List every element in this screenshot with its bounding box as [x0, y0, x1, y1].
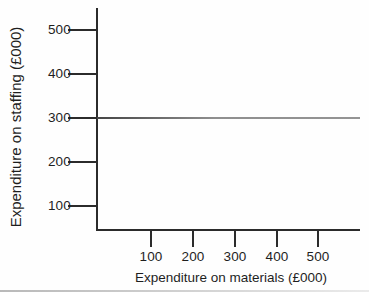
chart-figure: Expenditure on staffing (£000) 500 400 3… [0, 0, 369, 292]
x-tick-label-500: 500 [298, 249, 338, 265]
x-tick-label-400: 400 [257, 249, 297, 265]
y-tick-label-500: 500 [31, 22, 71, 38]
x-tick-label-100: 100 [131, 249, 171, 265]
y-axis-line [96, 8, 98, 231]
x-tick-500 [317, 230, 319, 247]
x-tick-100 [150, 230, 152, 247]
y-tick-label-400: 400 [31, 66, 71, 82]
y-tick-500 [68, 29, 97, 31]
y-tick-300 [68, 117, 97, 119]
x-tick-200 [192, 230, 194, 247]
x-tick-label-200: 200 [173, 249, 213, 265]
y-tick-100 [68, 205, 97, 207]
x-axis-line [97, 229, 360, 231]
y-tick-label-300: 300 [31, 110, 71, 126]
x-axis-title: Expenditure on materials (£000) [97, 269, 365, 286]
x-tick-400 [276, 230, 278, 247]
x-tick-300 [234, 230, 236, 247]
y-tick-200 [68, 161, 97, 163]
y-axis-title: Expenditure on staffing (£000) [7, 27, 25, 228]
x-tick-label-300: 300 [215, 249, 255, 265]
y-tick-label-200: 200 [31, 154, 71, 170]
horizontal-line-300 [97, 117, 360, 119]
y-tick-label-100: 100 [31, 198, 71, 214]
y-tick-400 [68, 73, 97, 75]
